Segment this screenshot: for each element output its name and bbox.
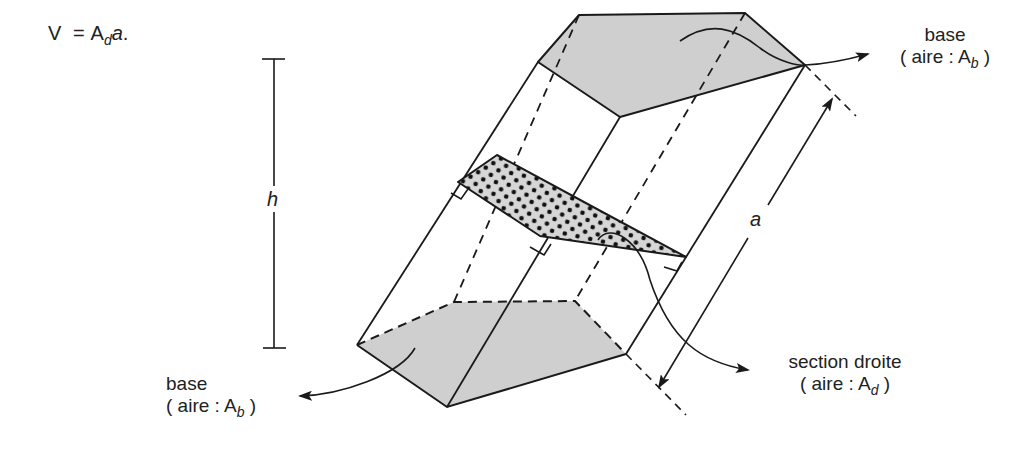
- edge-length-label: a: [750, 208, 761, 230]
- formula-symbol: A: [91, 22, 104, 44]
- formula-end: .: [123, 22, 129, 44]
- bottom-base-face: [357, 301, 626, 407]
- bottom-base-area: ( aire : Ab ): [166, 395, 256, 417]
- top-base-face: [538, 13, 805, 117]
- bottom-base-label: base ( aire : Ab ): [166, 373, 256, 417]
- bottom-base-title: base: [166, 373, 256, 395]
- height-label: h: [267, 188, 278, 210]
- formula-equals: =: [73, 22, 85, 44]
- volume-formula: V =Ada.: [48, 22, 128, 44]
- edge-length-dimension: [659, 99, 832, 387]
- top-base-label: base ( aire : Ab ): [880, 24, 1010, 68]
- top-base-area: ( aire : Ab ): [880, 46, 1010, 68]
- formula-lhs: V: [48, 22, 61, 44]
- section-title: section droite: [760, 351, 930, 373]
- top-base-title: base: [880, 24, 1010, 46]
- section-area: ( aire : Ad ): [760, 373, 930, 395]
- formula-subscript: d: [104, 32, 112, 48]
- section-label: section droite ( aire : Ad ): [760, 351, 930, 395]
- formula-var: a: [112, 22, 123, 44]
